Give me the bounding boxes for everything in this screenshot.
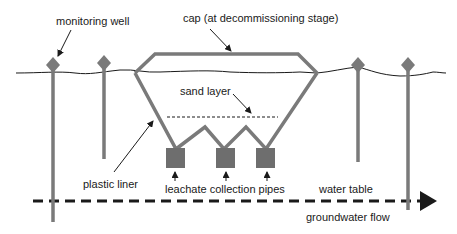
- well-head-diamond-icon: [351, 57, 365, 73]
- monitoring-well-label: monitoring well: [56, 15, 129, 27]
- landfill-cap: [135, 54, 317, 73]
- well-head-diamond-icon: [97, 55, 111, 71]
- well-head-diamond-icon: [401, 57, 415, 73]
- groundwater-flow-arrowhead-icon: [420, 191, 437, 211]
- leachate-pipe-2: [216, 148, 235, 168]
- monitoring-well-pointer-arrow: [58, 30, 71, 56]
- leachate-pipes-label: leachate collection pipes: [165, 183, 285, 195]
- monitoring-well-2: [97, 55, 111, 159]
- monitoring-well-4: [401, 57, 415, 210]
- sand-layer-label: sand layer: [180, 85, 231, 97]
- monitoring-well-3: [351, 57, 365, 162]
- well-head-diamond-icon: [46, 57, 60, 73]
- leachate-pipe-1: [166, 148, 185, 168]
- ground-surface-line: [16, 67, 446, 76]
- sand-layer-pointer-arrow: [233, 94, 251, 113]
- cap-pointer-arrow: [210, 29, 231, 51]
- cap-label: cap (at decommissioning stage): [183, 12, 338, 24]
- groundwater-flow-label: groundwater flow: [306, 211, 390, 223]
- monitoring-well-1: [46, 57, 60, 222]
- landfill-diagram: monitoring well cap (at decommissioning …: [0, 0, 457, 234]
- plastic-liner-label: plastic liner: [83, 178, 138, 190]
- plastic-liner-pointer-arrow: [114, 121, 153, 172]
- leachate-pipe-3: [256, 148, 275, 168]
- water-table-label: water table: [318, 183, 373, 195]
